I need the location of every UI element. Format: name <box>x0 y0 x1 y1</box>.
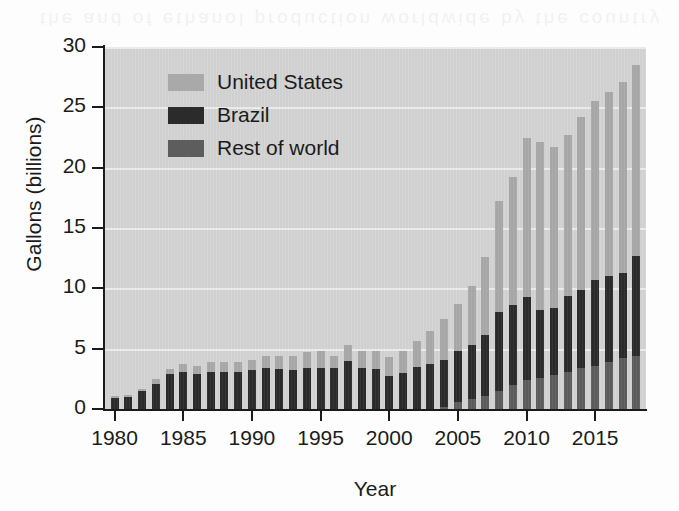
bar-1987 <box>207 362 215 409</box>
bar-segment-brazil <box>193 374 201 409</box>
bar-segment-rest-of-world <box>481 396 489 409</box>
bar-2018 <box>632 65 640 409</box>
bar-segment-united-states <box>550 147 558 307</box>
bar-2002 <box>413 341 421 409</box>
bar-segment-rest-of-world <box>619 358 627 409</box>
bar-2011 <box>536 142 544 409</box>
legend-label: Brazil <box>217 103 270 127</box>
bar-1983 <box>152 379 160 409</box>
bar-segment-rest-of-world <box>536 378 544 409</box>
bar-segment-brazil <box>152 384 160 409</box>
bar-segment-united-states <box>577 117 585 290</box>
bar-segment-united-states <box>385 357 393 376</box>
chart-legend: United StatesBrazilRest of world <box>168 70 343 169</box>
x-tick <box>594 410 596 421</box>
x-tick <box>114 410 116 421</box>
y-tick <box>92 167 104 169</box>
bar-segment-united-states <box>619 82 627 273</box>
bar-segment-brazil <box>523 297 531 380</box>
legend-label: Rest of world <box>217 136 340 160</box>
y-tick-label: 5 <box>18 335 86 359</box>
bar-segment-united-states <box>317 351 325 368</box>
bar-segment-brazil <box>426 364 434 409</box>
x-tick-label: 2015 <box>555 426 635 450</box>
bar-segment-united-states <box>138 389 146 391</box>
bar-1992 <box>275 356 283 409</box>
bar-segment-brazil <box>591 280 599 366</box>
bar-segment-brazil <box>564 296 572 372</box>
bar-segment-united-states <box>591 101 599 280</box>
bar-segment-rest-of-world <box>564 372 572 409</box>
bar-2009 <box>509 177 517 409</box>
bar-segment-brazil <box>220 372 228 409</box>
bar-segment-united-states <box>289 356 297 370</box>
bar-1981 <box>124 395 132 409</box>
bar-segment-brazil <box>111 398 119 409</box>
y-tick-label: 20 <box>18 154 86 178</box>
bar-segment-brazil <box>358 368 366 409</box>
bar-segment-brazil <box>179 372 187 409</box>
bar-2007 <box>481 257 489 409</box>
bar-segment-brazil <box>481 335 489 395</box>
bar-segment-rest-of-world <box>509 385 517 409</box>
legend-swatch-rest-of-world <box>168 140 204 157</box>
bar-1988 <box>220 362 228 409</box>
bar-segment-united-states <box>481 257 489 335</box>
bar-segment-united-states <box>440 319 448 360</box>
bar-segment-rest-of-world <box>591 366 599 409</box>
bar-segment-brazil <box>385 376 393 409</box>
bar-2003 <box>426 331 434 409</box>
y-tick-label: 10 <box>18 274 86 298</box>
bar-1999 <box>372 351 380 409</box>
bar-segment-brazil <box>344 361 352 409</box>
bar-segment-united-states <box>111 396 119 398</box>
y-tick-label: 15 <box>18 214 86 238</box>
bar-segment-united-states <box>234 362 242 372</box>
bar-segment-rest-of-world <box>632 356 640 409</box>
bar-segment-united-states <box>564 135 572 295</box>
bar-segment-brazil <box>495 312 503 390</box>
bar-segment-brazil <box>536 310 544 378</box>
bar-1990 <box>248 360 256 409</box>
legend-item-brazil: Brazil <box>168 103 343 127</box>
bar-segment-united-states <box>509 177 517 305</box>
bar-segment-rest-of-world <box>577 368 585 409</box>
bar-2014 <box>577 117 585 409</box>
bar-segment-brazil <box>509 305 517 385</box>
bar-segment-brazil <box>330 368 338 409</box>
bar-segment-brazil <box>124 397 132 409</box>
x-tick <box>182 410 184 421</box>
bar-1980 <box>111 396 119 409</box>
bar-1993 <box>289 356 297 409</box>
bar-2006 <box>468 286 476 409</box>
bar-segment-united-states <box>248 360 256 371</box>
bar-2016 <box>605 92 613 409</box>
bar-segment-united-states <box>426 331 434 365</box>
bar-1985 <box>179 364 187 409</box>
bar-segment-brazil <box>413 367 421 409</box>
bar-segment-brazil <box>289 370 297 409</box>
bar-segment-brazil <box>619 273 627 359</box>
x-tick <box>457 410 459 421</box>
bar-segment-brazil <box>317 368 325 409</box>
bar-segment-united-states <box>495 201 503 312</box>
bar-segment-united-states <box>372 351 380 369</box>
bar-1997 <box>344 345 352 409</box>
bar-segment-united-states <box>344 345 352 361</box>
x-tick <box>320 410 322 421</box>
x-tick <box>526 410 528 421</box>
bar-segment-united-states <box>166 369 174 374</box>
bar-2000 <box>385 357 393 409</box>
bar-segment-united-states <box>262 356 270 368</box>
bar-segment-united-states <box>605 92 613 277</box>
bar-segment-rest-of-world <box>523 380 531 409</box>
bar-segment-brazil <box>454 351 462 402</box>
bar-2015 <box>591 101 599 409</box>
y-tick <box>92 287 104 289</box>
bar-segment-brazil <box>468 345 476 399</box>
bar-segment-brazil <box>440 360 448 407</box>
legend-item-rest-of-world: Rest of world <box>168 136 343 160</box>
y-tick-label: 30 <box>18 33 86 57</box>
y-tick <box>92 408 104 410</box>
bar-segment-brazil <box>166 374 174 409</box>
